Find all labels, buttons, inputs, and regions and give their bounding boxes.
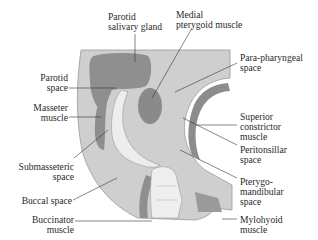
label-parapharyngeal-space: Para-pharyngeal space [240,53,303,73]
label-pterygomandibular-space: Pterygo- mandibular space [240,177,284,207]
label-submasseteric-space: Submasseteric space [4,162,74,182]
label-superior-constrictor-muscle: Superior constrictor muscle [240,112,281,142]
anatomy-diagram: Parotid salivary gland Medial pterygoid … [0,0,318,240]
label-mylohyoid-muscle: Mylohyoid muscle [240,215,283,235]
label-peritonsillar-space: Peritonsillar space [240,145,287,165]
label-buccal-space: Buccal space [4,196,72,206]
label-parotid-salivary-gland: Parotid salivary gland [108,12,162,32]
medial-pterygoid-region [138,88,162,124]
label-masseter-muscle: Masseter muscle [22,103,68,123]
label-buccinator-muscle: Buccinator muscle [10,215,74,235]
label-medial-pterygoid-muscle: Medial pterygoid muscle [176,10,242,30]
label-parotid-space: Parotid space [30,73,68,93]
